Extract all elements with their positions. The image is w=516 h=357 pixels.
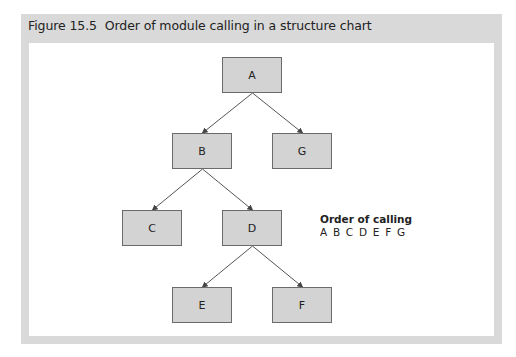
edge-a-g: [253, 93, 303, 133]
module-f: F: [272, 287, 332, 323]
module-b: B: [172, 133, 232, 169]
module-c: C: [122, 210, 182, 246]
edge-a-b: [203, 93, 253, 133]
edge-b-d: [203, 169, 253, 210]
module-a: A: [222, 57, 282, 93]
module-b-label: B: [198, 145, 206, 158]
legend-sequence: A B C D E F G: [320, 226, 412, 238]
module-g: G: [272, 133, 332, 169]
calling-order-legend: Order of calling A B C D E F G: [320, 213, 412, 238]
edge-d-e: [203, 246, 253, 287]
module-a-label: A: [248, 69, 256, 82]
module-c-label: C: [148, 222, 156, 235]
module-g-label: G: [298, 145, 307, 158]
module-d: D: [222, 210, 282, 246]
module-d-label: D: [248, 222, 256, 235]
legend-title: Order of calling: [320, 213, 412, 225]
edges-layer: [0, 0, 516, 357]
edge-d-f: [253, 246, 303, 287]
module-f-label: F: [299, 299, 305, 312]
edge-b-c: [153, 169, 203, 210]
module-e: E: [172, 287, 232, 323]
module-e-label: E: [199, 299, 206, 312]
